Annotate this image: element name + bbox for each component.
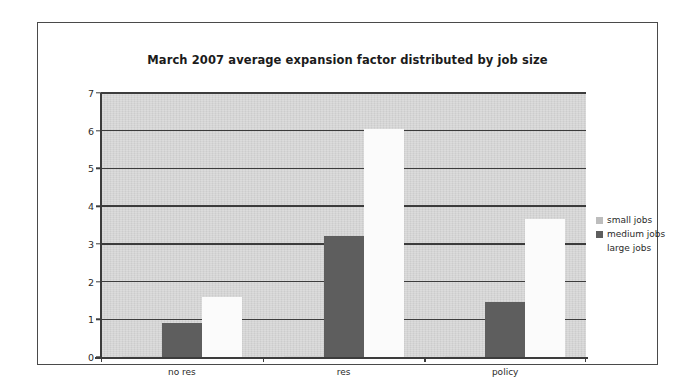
y-axis-tick-label: 3: [88, 238, 94, 249]
legend-swatch-icon: [596, 217, 603, 224]
legend-label: medium jobs: [607, 230, 665, 239]
x-tick-mark: [101, 357, 102, 362]
y-axis-tick-label: 2: [88, 276, 94, 287]
y-axis-tick-label: 0: [88, 352, 94, 363]
y-axis-tick-label: 7: [88, 88, 94, 99]
y-axis-tick-label: 5: [88, 163, 94, 174]
x-axis-category-label: policy: [492, 367, 519, 377]
bar-large-jobs-policy: [525, 219, 565, 357]
y-axis-tick-label: 4: [88, 201, 94, 212]
y-axis-tick-label: 1: [88, 314, 94, 325]
chart-legend: small jobsmedium jobslarge jobs: [596, 213, 688, 255]
bar-large-jobs-res: [364, 129, 404, 357]
chart-title: March 2007 average expansion factor dist…: [38, 53, 657, 67]
chart-frame: March 2007 average expansion factor dist…: [37, 22, 658, 365]
legend-item-large-jobs: large jobs: [596, 241, 688, 255]
x-axis-category-label: no res: [168, 367, 196, 377]
bars-layer: [101, 93, 586, 357]
legend-swatch-icon: [596, 245, 603, 252]
bar-small-jobs-policy: [445, 356, 485, 357]
bar-medium-jobs-res: [324, 236, 364, 357]
plot-region: 01234567 no resrespolicy: [101, 93, 586, 357]
legend-label: small jobs: [607, 216, 652, 225]
legend-item-small-jobs: small jobs: [596, 213, 688, 227]
bar-medium-jobs-policy: [485, 302, 525, 357]
x-tick-mark: [585, 357, 586, 362]
x-axis-category-label: res: [337, 367, 351, 377]
legend-item-medium-jobs: medium jobs: [596, 227, 688, 241]
chart-page: March 2007 average expansion factor dist…: [0, 0, 697, 386]
x-axis-line: [95, 357, 588, 359]
bar-small-jobs-res: [284, 356, 324, 357]
legend-swatch-icon: [596, 231, 603, 238]
y-axis-tick-label: 6: [88, 125, 94, 136]
bar-small-jobs-no-res: [122, 356, 162, 357]
x-tick-mark: [263, 357, 264, 362]
bar-large-jobs-no-res: [202, 297, 242, 357]
legend-label: large jobs: [607, 244, 651, 253]
x-tick-mark: [424, 357, 425, 362]
bar-medium-jobs-no-res: [162, 323, 202, 357]
